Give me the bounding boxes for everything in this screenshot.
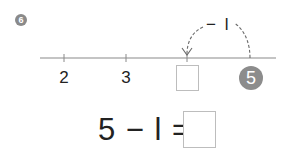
number-line-answer-box[interactable] xyxy=(176,65,199,91)
start-number-circle: 5 xyxy=(239,66,263,90)
exercise-canvas: 6 − l 2 3 5 5 − l = xyxy=(0,0,292,161)
hop-minus-one-label: − l xyxy=(206,15,230,35)
equation-answer-box[interactable] xyxy=(183,111,216,148)
tick-label-3: 3 xyxy=(116,68,136,88)
equation-text: 5 − l = xyxy=(98,110,191,150)
tick-label-2: 2 xyxy=(54,68,74,88)
